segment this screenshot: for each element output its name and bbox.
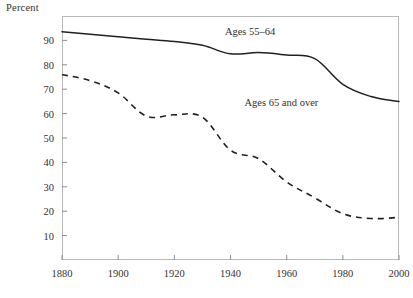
- y-tick-label: 60: [24, 108, 54, 119]
- chart-figure: Percent 102030405060708090 1880190019201…: [0, 0, 413, 298]
- y-tick-label: 40: [24, 157, 54, 168]
- series-line-ages-65-and-over: [62, 75, 399, 219]
- chart-canvas: [0, 0, 413, 298]
- series-line-ages-55-64: [62, 32, 399, 102]
- x-tick-label: 1940: [208, 268, 254, 279]
- y-tick-label: 80: [24, 59, 54, 70]
- y-tick-label: 90: [24, 35, 54, 46]
- series-annotation-label: Ages 65 and over: [245, 97, 319, 108]
- x-tick-label: 1920: [151, 268, 197, 279]
- series-annotation-label: Ages 55–64: [225, 26, 275, 37]
- x-tick-label: 1900: [95, 268, 141, 279]
- x-tick-label: 1880: [39, 268, 85, 279]
- x-axis-ticks: [62, 255, 399, 260]
- y-tick-label: 70: [24, 84, 54, 95]
- y-tick-label: 20: [24, 206, 54, 217]
- x-tick-label: 2000: [376, 268, 413, 279]
- y-tick-label: 30: [24, 181, 54, 192]
- x-tick-label: 1960: [264, 268, 310, 279]
- y-axis-ticks: [62, 40, 67, 235]
- x-tick-label: 1980: [320, 268, 366, 279]
- y-tick-label: 50: [24, 133, 54, 144]
- y-tick-label: 10: [24, 230, 54, 241]
